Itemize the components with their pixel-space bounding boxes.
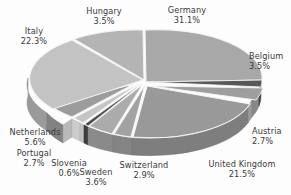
label-hungary-name: Hungary [73,6,135,16]
label-belgium-name: Belgium [249,51,291,61]
label-netherlands-name: Netherlands [0,127,72,137]
label-portugal-name: Portugal [5,148,63,158]
slice-side-slovenia [84,125,88,145]
pie-chart: Hungary 3.5% Germany 31.1% Italy 22.3% B… [0,0,291,195]
label-hungary: Hungary 3.5% [73,6,135,26]
slice-side-switzerland [113,135,132,155]
label-italy: Italy 22.3% [8,26,60,46]
label-united-kingdom-value: 21.5% [196,169,288,179]
label-united-kingdom-name: United Kingdom [196,159,288,169]
label-italy-name: Italy [8,26,60,36]
pie-top-faces [30,30,263,138]
label-italy-value: 22.3% [8,36,60,46]
slice-germany[interactable] [145,30,262,82]
label-switzerland-name: Switzerland [108,160,180,170]
label-austria-name: Austria [252,126,291,136]
label-switzerland: Switzerland 2.9% [108,160,180,180]
label-austria: Austria 2.7% [252,126,291,146]
label-netherlands-value: 5.6% [0,137,72,147]
label-belgium: Belgium 3.5% [249,51,291,71]
label-germany-value: 31.1% [152,15,222,25]
label-austria-value: 2.7% [252,136,291,146]
slice-side-portugal-arc [80,123,84,143]
label-belgium-value: 3.5% [249,61,291,71]
label-united-kingdom: United Kingdom 21.5% [196,159,288,179]
slice-side-portugal [72,119,80,141]
label-germany: Germany 31.1% [152,5,222,25]
label-hungary-value: 3.5% [73,16,135,26]
label-switzerland-value: 2.9% [108,170,180,180]
label-germany-name: Germany [152,5,222,15]
label-netherlands: Netherlands 5.6% [0,127,72,147]
